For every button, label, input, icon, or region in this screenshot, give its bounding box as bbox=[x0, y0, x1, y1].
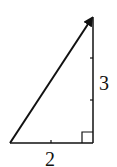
hypotenuse-vector-arrow bbox=[10, 18, 92, 143]
triangle-diagram: 3 2 bbox=[0, 0, 117, 167]
right-angle-marker bbox=[82, 132, 93, 143]
vertical-leg-label: 3 bbox=[99, 72, 109, 94]
horizontal-leg-label: 2 bbox=[45, 148, 55, 167]
